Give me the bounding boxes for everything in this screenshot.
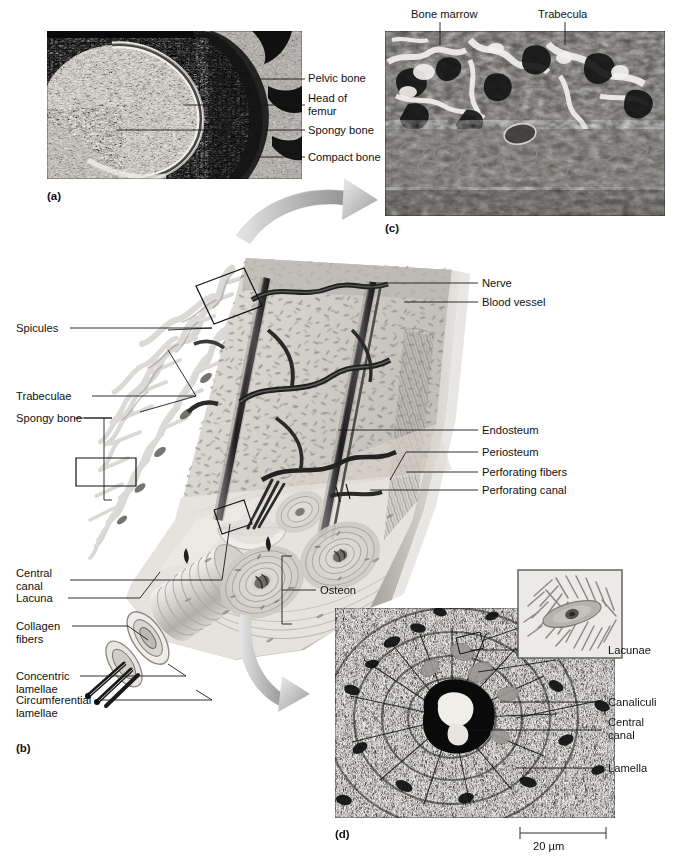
label-spongy-bone-b: Spongy bone (16, 412, 82, 425)
scale-bar-label: 20 µm (533, 840, 564, 853)
label-perforating-fibers: Perforating fibers (482, 466, 567, 479)
label-lamella: Lamella (608, 762, 647, 775)
panel-c-photo-group (385, 31, 665, 216)
bone-structure-figure: Pelvic bone Head of femur Spongy bone Co… (0, 0, 679, 860)
label-trabeculae: Trabeculae (16, 390, 72, 403)
osteocyte-inset (518, 570, 622, 658)
label-lacuna: Lacuna (16, 592, 53, 605)
label-pelvic-bone: Pelvic bone (308, 72, 366, 85)
label-periosteum: Periosteum (482, 446, 539, 459)
panel-key-d: (d) (335, 828, 350, 840)
arrow-to-panel-c (236, 178, 378, 244)
panel-key-a: (a) (47, 190, 61, 202)
label-compact-bone-a: Compact bone (308, 151, 381, 164)
label-bone-marrow: Bone marrow (411, 8, 478, 21)
label-trabecula: Trabecula (538, 8, 587, 21)
label-nerve: Nerve (482, 277, 512, 290)
panel-key-b: (b) (16, 742, 31, 754)
label-central-canal-b: Central canal (16, 567, 52, 592)
label-spicules: Spicules (16, 322, 58, 335)
label-spongy-bone-a: Spongy bone (308, 124, 374, 137)
label-endosteum: Endosteum (482, 424, 539, 437)
label-osteon: Osteon (320, 584, 356, 597)
label-circumferential-lamellae: Circumferential lamellae (16, 694, 91, 719)
label-perforating-canal: Perforating canal (482, 484, 567, 497)
label-blood-vessel: Blood vessel (482, 296, 545, 309)
label-collagen-fibers: Collagen fibers (16, 620, 60, 645)
panel-a-photo-group (47, 31, 302, 180)
scale-bar-graphic (520, 827, 606, 839)
label-concentric-lamellae: Concentric lamellae (16, 670, 69, 695)
label-central-canal-d: Central canal (608, 716, 644, 741)
label-head-of-femur: Head of femur (308, 92, 347, 117)
panel-key-c: (c) (385, 222, 399, 234)
label-lacunae: Lacunae (608, 644, 651, 657)
label-canaliculi: Canaliculi (608, 696, 657, 709)
